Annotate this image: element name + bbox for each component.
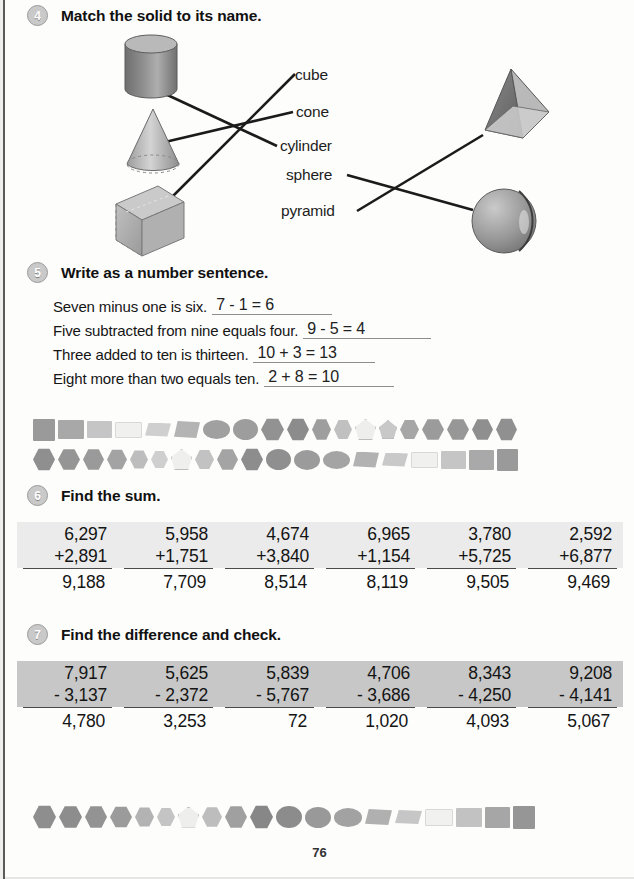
decor-hex-icon	[110, 806, 132, 828]
sentence-row: Five subtracted from nine equals four. 9…	[53, 320, 431, 339]
decorative-shape-strip-2	[33, 448, 518, 471]
subtrahend: - 4,141	[530, 685, 612, 707]
sum-answer[interactable]: 8,119	[320, 569, 421, 593]
decor-oval-icon	[233, 419, 258, 440]
decor-rect-icon	[58, 420, 84, 439]
decor-hex-icon	[217, 449, 238, 471]
sum-answer[interactable]: 9,188	[17, 569, 118, 593]
decor-hex-icon	[312, 419, 331, 441]
label-sphere[interactable]: sphere	[286, 166, 332, 184]
exercise-5-title: Write as a number sentence.	[61, 264, 268, 282]
difference-answer[interactable]: 1,020	[320, 708, 421, 732]
sentence-answer-input[interactable]: 9 - 5 = 4	[303, 320, 431, 339]
minuend: 5,625	[126, 663, 208, 685]
minuend: 7,917	[25, 663, 107, 685]
sentence-answer-input[interactable]: 2 + 8 = 10	[264, 368, 394, 387]
exercise-7-problem-row: 7,917 - 3,137 4,780 5,625 - 2,372 3,253 …	[17, 661, 623, 733]
decor-hex-icon	[157, 808, 175, 827]
decorative-shape-strip-1	[33, 418, 517, 441]
decor-hex-icon	[83, 449, 104, 471]
sum-answer[interactable]: 7,709	[118, 569, 219, 593]
addend-top: 6,297	[25, 524, 107, 546]
sentence-prompt: Three added to ten is thirteen.	[53, 346, 248, 363]
sum-answer[interactable]: 9,469	[522, 569, 623, 593]
exercise-6-header: 6 Find the sum.	[27, 485, 160, 506]
subtrahend: - 5,767	[227, 685, 309, 707]
addend-bottom: +5,725	[429, 546, 511, 568]
sum-answer[interactable]: 8,514	[219, 569, 320, 593]
decor-rhomb-icon	[382, 453, 408, 467]
label-cylinder[interactable]: cylinder	[280, 137, 332, 155]
sentence-prompt: Five subtracted from nine equals four.	[53, 322, 298, 339]
cone-solid	[111, 106, 195, 178]
decor-hex-icon	[472, 419, 493, 441]
exercise-6-problem-row: 6,297 +2,891 9,188 5,958 +1,751 7,709 4,…	[17, 522, 623, 594]
decor-rhomb-icon	[353, 452, 379, 468]
addend-top: 5,958	[126, 524, 208, 546]
addend-bottom: +6,877	[530, 546, 612, 568]
subtraction-problem: 5,625 - 2,372 3,253	[118, 661, 219, 733]
subtraction-problem: 4,706 - 3,686 1,020	[320, 661, 421, 733]
exercise-4-header: 4 Match the solid to its name.	[27, 5, 261, 26]
decor-square-icon	[33, 419, 55, 441]
decor-pent-icon	[355, 419, 376, 440]
label-cube[interactable]: cube	[295, 66, 328, 84]
subtrahend: - 3,686	[328, 685, 410, 707]
decor-oval-icon	[323, 451, 350, 469]
label-cone[interactable]: cone	[296, 103, 329, 121]
exercise-7-number: 7	[27, 624, 48, 645]
exercise-4-title: Match the solid to its name.	[61, 7, 261, 25]
decor-hex-icon	[85, 806, 107, 829]
decor-hex-icon	[33, 805, 56, 829]
addend-bottom: +1,751	[126, 546, 208, 568]
decor-hex-icon	[107, 449, 127, 470]
difference-answer[interactable]: 5,067	[522, 708, 623, 732]
sentence-answer-input[interactable]: 10 + 3 = 13	[253, 344, 375, 363]
addition-problem: 2,592 +6,877 9,469	[522, 522, 623, 594]
label-pyramid[interactable]: pyramid	[281, 202, 335, 220]
decor-hex-icon	[261, 418, 284, 441]
cylinder-solid	[115, 31, 191, 107]
difference-answer[interactable]: 3,253	[118, 708, 219, 732]
subtraction-problem: 8,343 - 4,250 4,093	[421, 661, 522, 733]
decor-oval-icon	[203, 420, 230, 439]
cube-solid	[108, 182, 192, 262]
decor-rect-icon	[456, 808, 482, 827]
minuend: 8,343	[429, 663, 511, 685]
decor-hex-icon	[496, 418, 517, 441]
exercise-6-title: Find the sum.	[61, 487, 160, 505]
sum-answer[interactable]: 9,505	[421, 569, 522, 593]
minuend: 5,839	[227, 663, 309, 685]
decor-rect-icon	[411, 452, 438, 468]
subtraction-problem: 5,839 - 5,767 72	[219, 661, 320, 733]
addend-top: 4,674	[227, 524, 309, 546]
difference-answer[interactable]: 4,780	[17, 708, 118, 732]
decor-hex-icon	[135, 807, 154, 827]
decor-hex-icon	[287, 418, 309, 441]
exercise-7-title: Find the difference and check.	[61, 626, 281, 644]
decor-oval-icon	[276, 806, 302, 828]
number-sentence-list: Seven minus one is six. 7 - 1 = 6 Five s…	[53, 296, 431, 392]
decor-oval-icon	[334, 808, 362, 827]
addition-problem: 3,780 +5,725 9,505	[421, 522, 522, 594]
decor-hex-icon	[58, 449, 80, 471]
addend-bottom: +2,891	[25, 546, 107, 568]
decor-square-icon	[497, 449, 518, 471]
sentence-row: Eight more than two equals ten. 2 + 8 = …	[53, 368, 431, 387]
exercise-7-header: 7 Find the difference and check.	[27, 624, 281, 645]
worksheet-page: 4 Match the solid to its name.	[0, 0, 634, 879]
minuend: 9,208	[530, 663, 612, 685]
decor-hex-icon	[59, 806, 82, 829]
match-solids-area: cube cone cylinder sphere pyramid	[5, 24, 634, 256]
decor-hex-icon	[195, 450, 214, 470]
minuend: 4,706	[328, 663, 410, 685]
sentence-answer-input[interactable]: 7 - 1 = 6	[212, 296, 332, 315]
difference-answer[interactable]: 4,093	[421, 708, 522, 732]
sentence-prompt: Seven minus one is six.	[53, 298, 207, 315]
decor-oval-icon	[294, 450, 320, 470]
decor-hex-icon	[422, 419, 444, 441]
decor-square-icon	[513, 806, 535, 829]
decor-hex-icon	[225, 806, 247, 829]
difference-answer[interactable]: 72	[219, 708, 320, 732]
sentence-row: Seven minus one is six. 7 - 1 = 6	[53, 296, 431, 315]
